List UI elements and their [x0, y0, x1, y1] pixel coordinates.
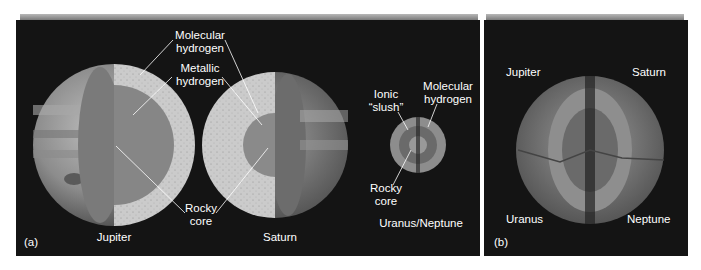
label-line: Rocky — [178, 202, 224, 215]
label-line: Molecular — [170, 29, 230, 42]
label-line: hydrogen — [170, 42, 230, 55]
planet-name-saturn: Saturn — [250, 231, 310, 244]
saturn-cutaway — [202, 72, 348, 218]
label-line: Molecular — [418, 80, 478, 93]
label-un-molecular-hydrogen: Molecular hydrogen — [418, 80, 478, 106]
quadrant-label-neptune: Neptune — [627, 213, 670, 226]
label-line: Rocky — [364, 182, 408, 195]
label-line: Metallic — [170, 62, 230, 75]
quadrant-label-saturn: Saturn — [632, 66, 666, 79]
label-rocky-core: Rocky core — [178, 202, 224, 228]
label-line: core — [178, 215, 224, 228]
quadrant-label-uranus: Uranus — [506, 213, 543, 226]
quadrant-label-jupiter: Jupiter — [506, 66, 541, 79]
jupiter-cutaway — [33, 64, 195, 226]
label-un-rocky-core: Rocky core — [364, 182, 408, 208]
panel-b-tag: (b) — [494, 236, 508, 249]
label-line: “slush” — [364, 101, 408, 114]
combined-planets-sphere — [516, 76, 664, 224]
label-molecular-hydrogen: Molecular hydrogen — [170, 29, 230, 55]
label-line: hydrogen — [170, 75, 230, 88]
label-line: hydrogen — [418, 93, 478, 106]
label-line: Ionic — [364, 88, 408, 101]
uranus-neptune-cutaway — [390, 117, 446, 173]
panel-a-tag: (a) — [24, 236, 38, 249]
label-metallic-hydrogen: Metallic hydrogen — [170, 62, 230, 88]
planet-name-uranus-neptune: Uranus/Neptune — [376, 217, 466, 230]
planet-interiors-illustration — [0, 0, 701, 270]
label-line: core — [364, 195, 408, 208]
label-ionic-slush: Ionic “slush” — [364, 88, 408, 114]
planet-name-jupiter: Jupiter — [84, 231, 144, 244]
